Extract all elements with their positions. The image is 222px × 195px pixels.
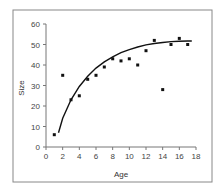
y-tick-label: 0	[36, 143, 41, 152]
data-point	[136, 64, 139, 67]
data-point	[70, 98, 73, 101]
data-point	[78, 94, 81, 97]
y-tick-label: 40	[31, 61, 40, 70]
data-point	[170, 43, 173, 46]
data-point	[145, 49, 148, 52]
data-point	[186, 43, 189, 46]
y-tick-label: 10	[31, 123, 40, 132]
data-point	[95, 74, 98, 77]
y-axis-title: Size	[17, 80, 26, 96]
data-point	[53, 133, 56, 136]
x-tick-label: 6	[94, 152, 99, 161]
data-point	[86, 78, 89, 81]
y-tick-label: 30	[31, 82, 40, 91]
data-point	[128, 57, 131, 60]
data-point	[153, 39, 156, 42]
data-point	[61, 74, 64, 77]
x-tick-label: 12	[142, 152, 151, 161]
x-tick-label: 2	[60, 152, 65, 161]
data-point	[161, 88, 164, 91]
x-tick-label: 14	[158, 152, 167, 161]
data-point	[103, 66, 106, 69]
x-tick-label: 0	[44, 152, 49, 161]
x-tick-label: 16	[175, 152, 184, 161]
x-tick-label: 4	[77, 152, 82, 161]
x-tick-label: 8	[110, 152, 115, 161]
y-tick-label: 20	[31, 102, 40, 111]
y-tick-label: 60	[31, 20, 40, 29]
y-tick-label: 50	[31, 41, 40, 50]
scatter-chart: 0102030405060 024681012141618 Size Age	[0, 0, 222, 195]
data-point	[111, 57, 114, 60]
x-axis-title: Age	[114, 170, 129, 179]
data-point	[178, 37, 181, 40]
x-tick-label: 18	[192, 152, 201, 161]
x-tick-label: 10	[125, 152, 134, 161]
data-point	[120, 59, 123, 62]
